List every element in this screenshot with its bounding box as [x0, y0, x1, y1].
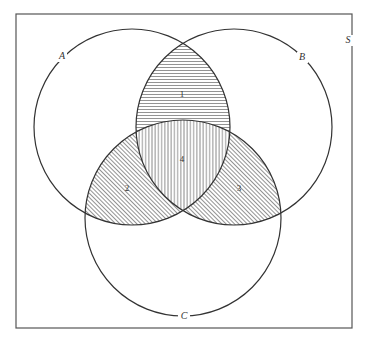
region-4-label: 4 [180, 154, 185, 164]
region-2-label: 2 [125, 183, 130, 193]
region-1-label: 1 [180, 89, 185, 99]
set-c-label: C [181, 310, 188, 321]
set-a-label: A [58, 50, 66, 61]
venn-diagram: A B C S 1 2 3 4 [0, 0, 365, 342]
set-b-label: B [299, 51, 305, 62]
universe-label: S [346, 34, 351, 45]
region-3-label: 3 [237, 183, 242, 193]
